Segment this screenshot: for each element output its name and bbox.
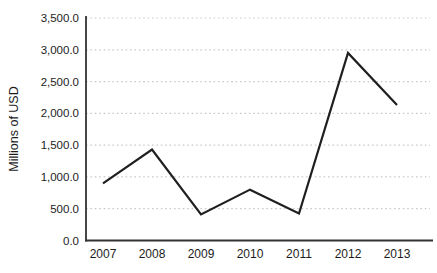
data-series-line	[103, 53, 397, 214]
y-tick-label: 2,000.0	[41, 107, 79, 119]
y-tick-label: 0.0	[63, 235, 79, 247]
x-tick-label: 2011	[286, 247, 312, 261]
line-chart: 0.0500.01,000.01,500.02,000.02,500.03,00…	[0, 0, 437, 273]
y-tick-label: 2,500.0	[41, 76, 79, 88]
x-tick-label: 2012	[335, 247, 362, 261]
chart-canvas: 0.0500.01,000.01,500.02,000.02,500.03,00…	[0, 0, 437, 273]
y-tick-label: 3,500.0	[41, 12, 79, 24]
x-tick-label: 2008	[139, 247, 166, 261]
y-tick-label: 500.0	[50, 203, 79, 215]
x-tick-label: 2007	[90, 247, 117, 261]
y-tick-label: 1,000.0	[41, 171, 79, 183]
y-axis-title: Millions of USD	[7, 86, 21, 171]
x-tick-label: 2013	[384, 247, 411, 261]
y-tick-label: 1,500.0	[41, 139, 79, 151]
y-tick-label: 3,000.0	[41, 44, 79, 56]
x-tick-label: 2010	[237, 247, 264, 261]
x-tick-label: 2009	[188, 247, 215, 261]
